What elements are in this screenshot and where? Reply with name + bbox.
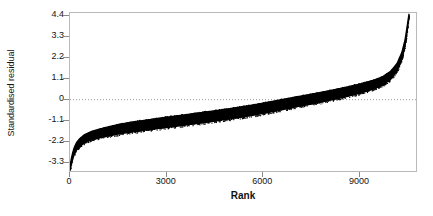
y-tick-label: 1.1	[34, 72, 64, 83]
x-tick-mark	[262, 172, 263, 177]
y-axis-title: Standardised residual	[2, 10, 20, 175]
y-tick-label: 2.2	[34, 51, 64, 62]
x-tick-label: 0	[47, 176, 91, 187]
x-axis-title: Rank	[69, 190, 417, 201]
chart-figure: Standardised residual 4.43.32.21.10-1.1-…	[0, 0, 433, 216]
y-tick-label: -3.3	[34, 156, 64, 167]
x-tick-label: 9000	[337, 176, 381, 187]
y-tick-label: -1.1	[34, 114, 64, 125]
scatter-band-series	[70, 13, 417, 172]
x-tick-label: 3000	[144, 176, 188, 187]
x-tick-mark	[69, 172, 70, 177]
x-tick-mark	[359, 172, 360, 177]
y-axis-title-text: Standardised residual	[6, 49, 16, 136]
x-tick-label: 6000	[240, 176, 284, 187]
x-tick-mark	[166, 172, 167, 177]
residual-point-cloud	[70, 14, 409, 170]
y-tick-label: 0	[34, 93, 64, 104]
y-tick-label: -2.2	[34, 135, 64, 146]
y-tick-label: 4.4	[34, 9, 64, 20]
plot-area	[69, 12, 417, 172]
y-tick-label: 3.3	[34, 30, 64, 41]
